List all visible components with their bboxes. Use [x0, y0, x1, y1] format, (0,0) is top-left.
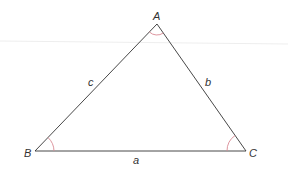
vertex-label-a: A [152, 10, 160, 22]
guide-line [0, 41, 288, 44]
angle-arc-b [48, 138, 54, 152]
vertex-label-b: B [24, 147, 31, 159]
side-c [35, 24, 157, 151]
side-label-a: a [133, 154, 139, 166]
vertex-label-c: C [249, 147, 257, 159]
angle-arc-c [227, 136, 235, 152]
angle-arc-a [149, 32, 163, 35]
side-label-b: b [205, 76, 211, 88]
triangle-diagram: A B C c b a [0, 0, 288, 175]
side-label-c: c [88, 76, 94, 88]
